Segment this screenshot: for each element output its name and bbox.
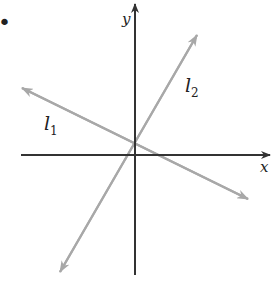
y-axis-label: y bbox=[122, 10, 130, 28]
line-l1-subscript: 1 bbox=[50, 124, 58, 138]
x-axis-label: x bbox=[260, 158, 268, 176]
line-l1-label: l1 bbox=[44, 112, 58, 138]
diagram-svg bbox=[0, 0, 280, 289]
line-l2-label: l2 bbox=[185, 74, 199, 100]
line-l2-subscript: 2 bbox=[191, 86, 199, 100]
line-l2 bbox=[60, 35, 197, 272]
coordinate-diagram: • y x l1 l2 bbox=[0, 0, 280, 289]
